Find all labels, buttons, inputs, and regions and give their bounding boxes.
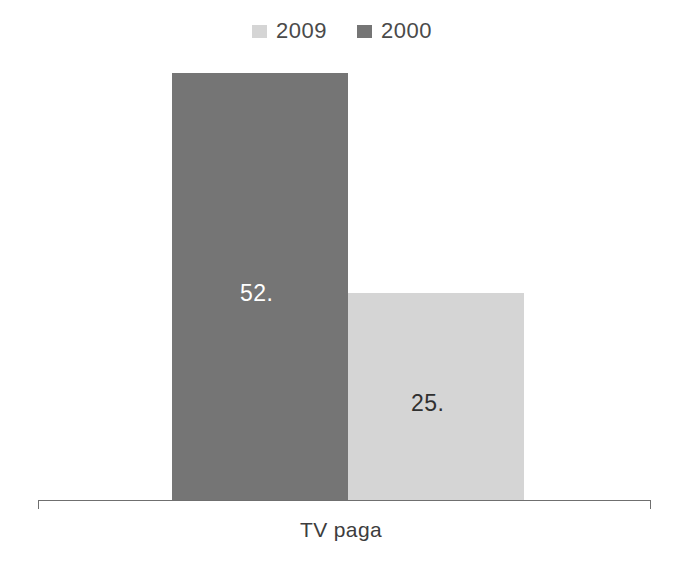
- x-axis-line: [38, 500, 651, 501]
- x-axis-tick-left: [38, 500, 39, 509]
- bar-chart: 2009 2000 52. 25. TV paga: [0, 0, 684, 567]
- bar-value-2009: 25.: [411, 392, 444, 415]
- x-axis-tick-right: [650, 500, 651, 509]
- x-axis-category-label: TV paga: [241, 518, 441, 542]
- plot-area: 52. 25. TV paga: [0, 0, 684, 567]
- bar-value-2000: 52.: [240, 282, 273, 305]
